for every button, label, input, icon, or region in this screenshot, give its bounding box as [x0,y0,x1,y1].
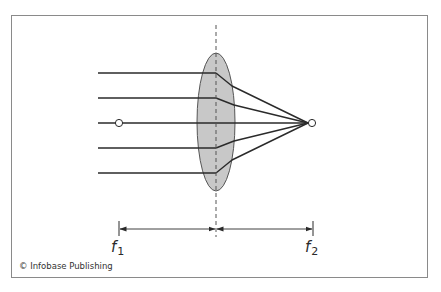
copyright-credit: © Infobase Publishing [19,261,113,271]
focal-point-f2 [308,119,315,126]
label-f2-sub: 2 [311,245,318,258]
focal-point-f1 [115,119,122,126]
label-f2: f2 [305,240,318,257]
label-f2-main: f [305,238,310,256]
label-f1-main: f [111,238,116,256]
optics-drawing [0,0,441,292]
label-f1: f1 [111,240,124,257]
lens-diagram: f1 f2 © Infobase Publishing [0,0,441,292]
label-f1-sub: 1 [117,245,124,258]
